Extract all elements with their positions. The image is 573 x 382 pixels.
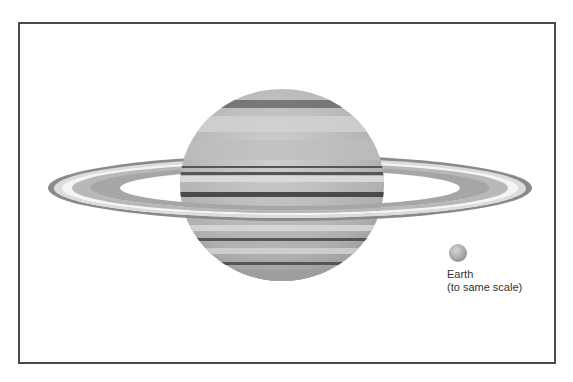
earth-label-scale-note: (to same scale) — [447, 281, 522, 294]
saturn-illustration — [0, 0, 573, 382]
planet-body — [170, 80, 400, 290]
earth-label-name: Earth — [447, 268, 522, 281]
earth-icon — [449, 244, 467, 262]
earth-label: Earth (to same scale) — [447, 268, 522, 294]
